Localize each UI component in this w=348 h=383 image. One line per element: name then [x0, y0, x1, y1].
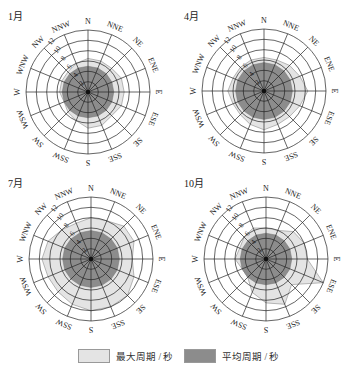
direction-label: SW	[206, 133, 221, 148]
direction-label: SSW	[227, 149, 246, 164]
legend-label-max: 最大周期 / 秒	[116, 349, 173, 363]
center-dot	[262, 89, 266, 93]
direction-label: SSE	[110, 318, 126, 332]
direction-label: S	[89, 325, 93, 334]
direction-label: SW	[30, 134, 45, 149]
direction-label: ESE	[146, 111, 160, 128]
direction-label: SSE	[107, 151, 123, 165]
direction-label: NNW	[53, 186, 75, 202]
direction-label: SSW	[229, 317, 248, 332]
direction-label: W	[189, 87, 198, 95]
direction-label: ESE	[324, 278, 338, 295]
direction-label: W	[191, 255, 200, 263]
direction-label: E	[157, 257, 166, 262]
direction-label: SW	[33, 301, 48, 316]
center-dot	[264, 257, 268, 261]
direction-label: N	[88, 184, 94, 193]
legend-swatch-mean	[184, 349, 216, 363]
direction-label: ENE	[146, 56, 160, 74]
rose-panel-3: 7月NNNENEENEEESESESSESSSWSWWSWWWNWNWNNW24…	[8, 178, 166, 334]
direction-label: NNE	[106, 19, 125, 34]
direction-label: SW	[208, 301, 223, 316]
direction-label: SSW	[51, 150, 70, 165]
legend: 最大周期 / 秒 平均周期 / 秒	[0, 345, 348, 369]
direction-label: WSW	[18, 275, 34, 297]
direction-label: N	[263, 184, 269, 193]
direction-label: S	[262, 157, 266, 166]
direction-label: NNW	[228, 186, 250, 202]
direction-label: NE	[134, 202, 148, 216]
rose-panel-1: 1月NNNENEENEEESESESSESSSWSWWSWWWNWNWNNW24…	[8, 11, 163, 167]
direction-label: E	[154, 90, 163, 95]
direction-label: NW	[30, 34, 46, 50]
direction-label: SSW	[54, 317, 73, 332]
wave-period-rose-charts: 1月NNNENEENEEESESESSESSSWSWWSWWWNWNWNNW24…	[0, 0, 348, 345]
direction-label: W	[16, 255, 25, 263]
direction-label: ENE	[322, 55, 336, 73]
direction-label: NE	[131, 35, 145, 49]
direction-label: ENE	[324, 223, 338, 241]
direction-label: WSW	[193, 275, 209, 297]
direction-label: NW	[206, 33, 222, 49]
panel-title: 4月	[184, 11, 199, 22]
direction-label: SE	[309, 302, 322, 315]
direction-label: SE	[131, 135, 144, 148]
direction-label: NE	[307, 34, 321, 48]
direction-label: SE	[307, 134, 320, 147]
direction-label: NNE	[109, 186, 128, 201]
direction-label: WNW	[193, 220, 209, 243]
direction-label: WSW	[191, 107, 207, 129]
direction-label: N	[261, 16, 267, 25]
legend-item-max-period: 最大周期 / 秒	[78, 349, 173, 363]
direction-label: ESE	[149, 278, 163, 295]
direction-label: NNW	[226, 18, 248, 34]
direction-label: E	[330, 89, 339, 94]
center-dot	[89, 257, 93, 261]
legend-swatch-max	[78, 349, 110, 363]
direction-label: WNW	[191, 52, 207, 75]
direction-label: NW	[33, 201, 49, 217]
direction-label: N	[85, 17, 91, 26]
direction-label: SE	[134, 302, 147, 315]
direction-label: SSE	[283, 150, 299, 164]
rose-panel-2: 4月NNNENEENEEESESESSESSSWSWWSWWWNWNWNNW24…	[184, 11, 339, 166]
direction-label: WSW	[15, 108, 31, 130]
direction-label: NW	[208, 201, 224, 217]
direction-label: WNW	[15, 53, 31, 76]
center-dot	[86, 90, 90, 94]
direction-label: S	[86, 158, 90, 167]
direction-label: NNE	[284, 186, 303, 201]
legend-label-mean: 平均周期 / 秒	[222, 349, 279, 363]
panel-title: 1月	[8, 11, 23, 22]
direction-label: WNW	[18, 220, 34, 243]
panel-title: 7月	[8, 178, 23, 189]
direction-label: NNW	[50, 19, 72, 35]
direction-label: S	[264, 325, 268, 334]
direction-label: W	[13, 88, 22, 96]
direction-label: NE	[309, 202, 323, 216]
direction-label: SSE	[285, 318, 301, 332]
legend-item-mean-period: 平均周期 / 秒	[184, 349, 279, 363]
direction-label: ESE	[322, 110, 336, 127]
direction-label: E	[332, 257, 341, 262]
panel-title: 10月	[184, 178, 204, 189]
direction-label: NNE	[282, 18, 301, 33]
rose-panel-4: 10月NNNENEENEEESESESSESSSWSWWSWWWNWNWNNW2…	[184, 178, 341, 334]
direction-label: ENE	[149, 223, 163, 241]
